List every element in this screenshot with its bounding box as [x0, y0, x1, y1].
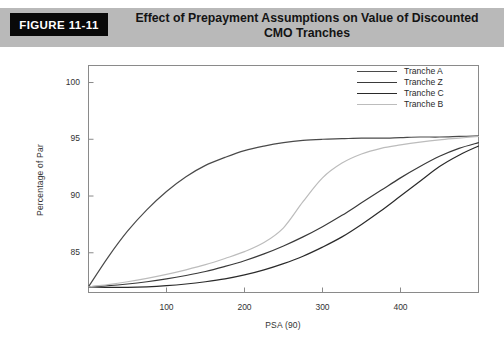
legend-line-swatch [357, 71, 397, 72]
legend-label: Tranche B [404, 99, 443, 110]
figure-number-label: FIGURE 11-11 [19, 19, 99, 31]
legend-line-swatch [357, 93, 397, 94]
x-tick-label: 300 [303, 302, 343, 312]
y-axis-title: Percentage of Par [35, 120, 45, 240]
figure-title-line-2: CMO Tranches [120, 26, 494, 41]
legend-item-tranche-c: Tranche C [357, 88, 475, 99]
legend-line-swatch [357, 104, 397, 105]
figure-title-line-1: Effect of Prepayment Assumptions on Valu… [120, 11, 494, 26]
legend-item-tranche-b: Tranche B [357, 99, 475, 110]
y-tick-label: 90 [46, 190, 80, 200]
figure-header-band: FIGURE 11-11 Effect of Prepayment Assump… [0, 8, 504, 47]
chart-legend: Tranche ATranche ZTranche CTranche B [357, 66, 475, 110]
y-tick-label: 85 [46, 247, 80, 257]
figure-number-badge: FIGURE 11-11 [10, 13, 108, 36]
figure-title: Effect of Prepayment Assumptions on Valu… [120, 11, 494, 41]
legend-label: Tranche C [404, 88, 444, 99]
x-tick-label: 100 [147, 302, 187, 312]
x-tick-label: 400 [381, 302, 421, 312]
legend-label: Tranche Z [404, 77, 443, 88]
x-axis-title: PSA (90) [88, 320, 478, 330]
legend-line-swatch [357, 82, 397, 83]
legend-item-tranche-a: Tranche A [357, 66, 475, 77]
x-tick-label: 200 [225, 302, 265, 312]
chart-container: 100 95 90 85 100 200 300 400 Percentage … [0, 47, 504, 344]
y-tick-label: 100 [46, 77, 80, 87]
legend-item-tranche-z: Tranche Z [357, 77, 475, 88]
legend-label: Tranche A [404, 66, 443, 77]
y-tick-label: 95 [46, 133, 80, 143]
